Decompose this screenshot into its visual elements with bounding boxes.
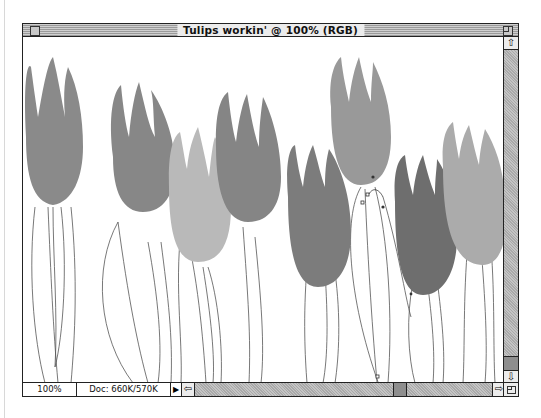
image-canvas[interactable] — [23, 37, 505, 383]
horizontal-scroll-thumb[interactable] — [393, 383, 407, 396]
tulips-artwork — [23, 37, 505, 383]
document-size-info: Doc: 660K/570K — [77, 383, 171, 396]
horizontal-scrollbar[interactable] — [195, 383, 492, 396]
resize-grip-icon[interactable] — [503, 383, 518, 396]
vertical-scrollbar[interactable]: ⇧ ⇩ — [503, 37, 518, 383]
scroll-left-arrow-icon[interactable]: ⇦ — [182, 383, 195, 396]
status-bar: 100% Doc: 660K/570K ▶ ⇦ ⇨ — [23, 382, 518, 396]
zoom-box-icon[interactable] — [503, 26, 513, 36]
window-title: Tulips workin' @ 100% (RGB) — [177, 24, 364, 36]
desktop-edge — [4, 0, 5, 418]
scroll-up-arrow-icon[interactable]: ⇧ — [504, 37, 518, 50]
document-window: Tulips workin' @ 100% (RGB) — [22, 23, 519, 397]
zoom-level-field[interactable]: 100% — [23, 383, 77, 396]
close-box-icon[interactable] — [30, 26, 40, 36]
info-popup-arrow-icon[interactable]: ▶ — [171, 383, 182, 396]
vertical-scroll-thumb[interactable] — [504, 356, 518, 370]
title-bar[interactable]: Tulips workin' @ 100% (RGB) — [23, 24, 518, 37]
